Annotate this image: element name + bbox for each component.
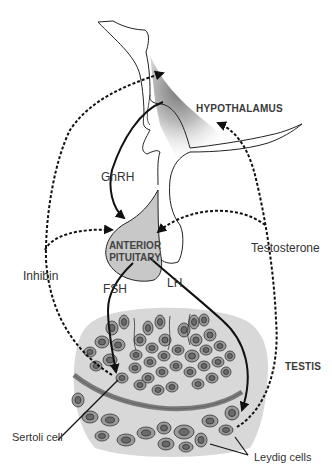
anterior-pituitary-line2: PITUITARY bbox=[104, 252, 166, 264]
testosterone-label: Testosterone bbox=[251, 242, 320, 254]
sertoli-cell-label: Sertoli cell bbox=[12, 432, 63, 443]
lh-label: LH bbox=[167, 277, 182, 289]
inhibin-to-pituitary bbox=[45, 230, 112, 250]
gnrh-label: GnRH bbox=[101, 171, 134, 183]
hpg-axis-diagram: HYPOTHALAMUS GnRH ANTERIOR PITUITARY Inh… bbox=[0, 0, 332, 474]
leydig-cells-label: Leydig cells bbox=[254, 452, 311, 463]
hypothalamus-label: HYPOTHALAMUS bbox=[196, 104, 283, 114]
testis-label: TESTIS bbox=[285, 362, 321, 372]
inhibin-label: Inhibin bbox=[23, 270, 58, 282]
diagram-graphics bbox=[0, 0, 332, 474]
anterior-pituitary-line1: ANTERIOR bbox=[104, 240, 166, 252]
fsh-label: FSH bbox=[103, 283, 127, 295]
testis bbox=[72, 308, 268, 457]
anterior-pituitary-label: ANTERIOR PITUITARY bbox=[104, 240, 166, 264]
